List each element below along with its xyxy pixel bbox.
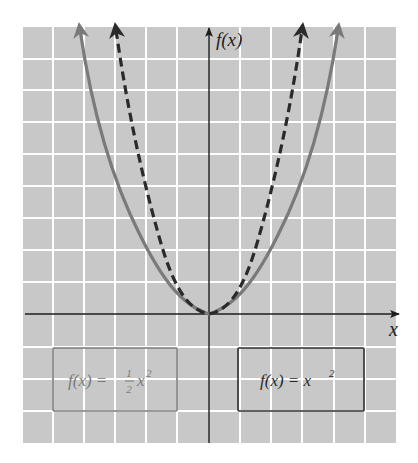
y-axis-label: f(x) (216, 29, 242, 51)
legend-left-exp: 2 (146, 367, 152, 379)
legend-right-var: x (303, 371, 312, 390)
svg-text:f(x) = x: f(x) = x (260, 371, 312, 390)
legend-right-exp: 2 (329, 367, 335, 379)
legend-left-fraction-num: 1 (126, 367, 132, 379)
legend-left-fraction-den: 2 (126, 383, 132, 395)
parabola-chart: f(x) x f(x) = 1 2 x 2 f(x) = x 2 (0, 0, 418, 463)
legend-left-prefix: f(x) = (68, 371, 107, 390)
svg-text:f(x) =: f(x) = (68, 371, 107, 390)
legend-right-prefix: f(x) = (260, 371, 304, 390)
legend-left-var: x (136, 371, 145, 390)
x-axis-label: x (388, 318, 398, 340)
